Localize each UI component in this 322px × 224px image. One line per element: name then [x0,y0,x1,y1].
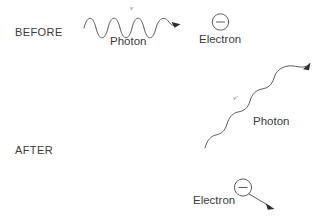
after-photon-frequency-symbol: ν′ [233,95,238,102]
after-phase-label: AFTER [15,145,53,156]
after-photon-label: Photon [253,116,289,128]
after-electron-label: Electron [193,195,235,207]
before-photon-label: Photon [110,36,146,48]
after-photon-wave [205,66,307,148]
before-electron-label: Electron [199,34,241,46]
before-photon-frequency-symbol: ν [130,5,133,12]
before-phase-label: BEFORE [15,27,63,38]
diagram-canvas: BEFORE ν Photon Electron AFTER ν′ Photon… [0,0,322,224]
after-photon-arrowhead [303,63,311,71]
after-electron-recoil-arrowhead [266,204,275,210]
